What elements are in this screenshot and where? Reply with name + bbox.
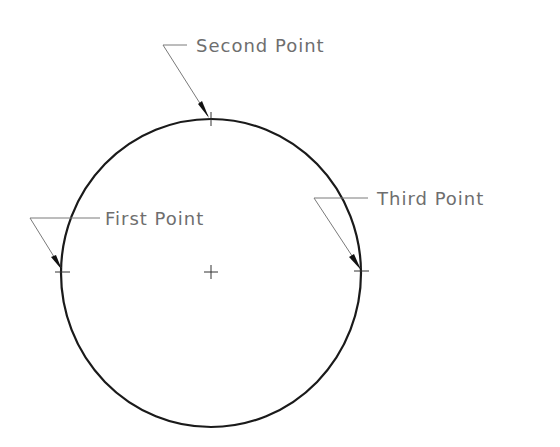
second-point-label: Second Point (196, 35, 325, 56)
third-point-annotation: Third Point (314, 188, 484, 271)
second-point-annotation: Second Point (163, 35, 325, 126)
first-point-annotation: First Point (30, 208, 204, 272)
circle-diagram: Second Point First Point Third Point (0, 0, 560, 447)
second-point-arrowhead (198, 101, 209, 118)
first-point-label: First Point (105, 208, 204, 229)
third-point-label: Third Point (376, 188, 484, 209)
center-mark (204, 265, 218, 279)
first-point-leader (30, 218, 100, 268)
